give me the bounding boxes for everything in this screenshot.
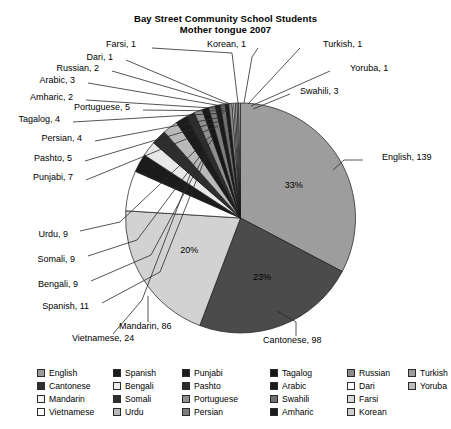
leader-line-punjabi [86, 126, 218, 180]
legend-swatch-farsi [347, 395, 355, 403]
legend-item-farsi[interactable]: Farsi [347, 392, 408, 405]
legend-label-korean: Korean [359, 408, 387, 417]
leader-line-cantonese [277, 311, 296, 336]
legend-label-mandarin: Mandarin [49, 395, 85, 404]
legend-swatch-english [37, 369, 45, 377]
legend-item-pashto[interactable]: Pashto [182, 379, 270, 392]
legend-item-spanish[interactable]: Spanish [113, 366, 182, 379]
legend-item-english[interactable]: English [37, 366, 113, 379]
slice-label-tagalog: Tagalog, 4 [0, 114, 60, 124]
legend-item-vietnamese[interactable]: Vietnamese [37, 405, 113, 418]
legend-swatch-mandarin [37, 395, 45, 403]
legend-swatch-somali [113, 395, 121, 403]
slice-label-farsi: Farsi, 1 [106, 39, 136, 49]
legend-item-korean[interactable]: Korean [347, 405, 408, 418]
legend-label-pashto: Pashto [194, 382, 221, 391]
legend-swatch-persian [182, 408, 190, 416]
legend-label-amharic: Amharic [282, 408, 314, 417]
pie-chart-figure: Bay Street Community School Students Mot… [0, 0, 451, 429]
legend-label-portuguese: Portuguese [194, 395, 238, 404]
legend-swatch-cantonese [37, 382, 45, 390]
slice-label-vietnamese: Vietnamese, 24 [72, 333, 134, 343]
legend-item-turkish[interactable]: Turkish [408, 366, 448, 379]
legend-swatch-korean [347, 408, 355, 416]
legend-label-yoruba: Yoruba [420, 382, 447, 391]
leader-line-dari [126, 60, 230, 104]
legend-item-yoruba[interactable]: Yoruba [408, 379, 448, 392]
legend-label-vietnamese: Vietnamese [49, 408, 94, 417]
legend-swatch-amharic [270, 408, 278, 416]
legend-label-russian: Russian [359, 369, 390, 378]
legend-item-somali[interactable]: Somali [113, 392, 182, 405]
leader-line-persian [95, 117, 222, 141]
legend-item-swahili[interactable]: Swahili [270, 392, 347, 405]
legend-swatch-portuguese [182, 395, 190, 403]
slice-label-persian: Persian, 4 [0, 133, 82, 143]
legend-label-punjabi: Punjabi [194, 369, 223, 378]
legend-spacer [408, 405, 448, 418]
legend-label-farsi: Farsi [359, 395, 378, 404]
legend-swatch-russian [347, 369, 355, 377]
leader-line-korean [244, 48, 258, 103]
slice-label-cantonese: Cantonese, 98 [263, 335, 322, 345]
slice-label-pashto: Pashto, 5 [0, 153, 72, 163]
legend-label-dari: Dari [359, 382, 375, 391]
leader-line-spanish [102, 156, 206, 303]
legend-swatch-swahili [270, 395, 278, 403]
legend-label-turkish: Turkish [420, 369, 448, 378]
legend-label-tagalog: Tagalog [282, 369, 312, 378]
slice-label-bengali: Bengali, 9 [0, 279, 78, 289]
legend: EnglishSpanishPunjabiTagalogRussianTurki… [37, 366, 422, 418]
leader-line-somali [88, 140, 212, 256]
leader-line-swahili [253, 94, 290, 109]
legend-item-cantonese[interactable]: Cantonese [37, 379, 113, 392]
slice-label-yoruba: Yoruba, 1 [350, 63, 388, 73]
legend-item-russian[interactable]: Russian [347, 366, 408, 379]
legend-label-spanish: Spanish [125, 369, 156, 378]
legend-item-tagalog[interactable]: Tagalog [270, 366, 347, 379]
legend-item-amharic[interactable]: Amharic [270, 405, 347, 418]
legend-swatch-vietnamese [37, 408, 45, 416]
legend-swatch-dari [347, 382, 355, 390]
legend-item-punjabi[interactable]: Punjabi [182, 366, 270, 379]
leader-line-russian [112, 71, 229, 105]
slice-label-english: English, 139 [382, 152, 432, 162]
slice-label-swahili: Swahili, 3 [300, 86, 339, 96]
legend-label-arabic: Arabic [282, 382, 306, 391]
slice-label-amharic: Amharic, 2 [0, 92, 73, 102]
slice-label-punjabi: Punjabi, 7 [0, 172, 73, 182]
slice-label-russian: Russian, 2 [0, 63, 99, 73]
legend-label-swahili: Swahili [282, 395, 309, 404]
legend-label-cantonese: Cantonese [49, 382, 91, 391]
legend-swatch-tagalog [270, 369, 278, 377]
legend-item-bengali[interactable]: Bengali [113, 379, 182, 392]
legend-item-dari[interactable]: Dari [347, 379, 408, 392]
slice-label-dari: Dari, 1 [0, 52, 113, 62]
legend-spacer [408, 392, 448, 405]
legend-item-persian[interactable]: Persian [182, 405, 270, 418]
legend-swatch-punjabi [182, 369, 190, 377]
legend-swatch-yoruba [408, 382, 416, 390]
legend-swatch-arabic [270, 382, 278, 390]
slice-label-mandarin: Mandarin, 86 [119, 321, 172, 331]
leader-line-english [333, 160, 363, 170]
slice-label-turkish: Turkish, 1 [323, 39, 362, 49]
legend-label-persian: Persian [194, 408, 223, 417]
legend-label-urdu: Urdu [125, 408, 144, 417]
slice-label-spanish: Spanish, 11 [0, 301, 89, 311]
legend-item-urdu[interactable]: Urdu [113, 405, 182, 418]
legend-swatch-pashto [182, 382, 190, 390]
slice-label-portuguese: Portuguese, 5 [0, 102, 130, 112]
legend-item-mandarin[interactable]: Mandarin [37, 392, 113, 405]
legend-swatch-urdu [113, 408, 121, 416]
legend-swatch-turkish [408, 369, 416, 377]
legend-item-arabic[interactable]: Arabic [270, 379, 347, 392]
slice-label-korean: Korean, 1 [207, 39, 246, 49]
leader-line-urdu [80, 133, 214, 231]
leader-line-pashto [85, 121, 220, 161]
legend-label-somali: Somali [125, 395, 151, 404]
legend-label-english: English [49, 369, 77, 378]
legend-label-bengali: Bengali [125, 382, 154, 391]
legend-item-portuguese[interactable]: Portuguese [182, 392, 270, 405]
slice-label-urdu: Urdu, 9 [0, 229, 68, 239]
